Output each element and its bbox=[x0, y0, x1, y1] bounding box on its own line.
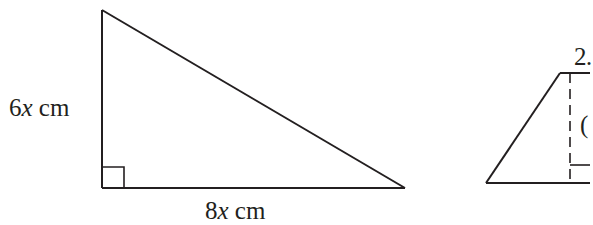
base-unit: cm bbox=[229, 197, 266, 224]
height-unit: cm bbox=[33, 94, 70, 121]
triangle-base-label: 8x cm bbox=[205, 198, 265, 223]
trapezoid-slanted-side bbox=[486, 73, 560, 183]
trapezoid-height-label-text: ( bbox=[580, 111, 588, 138]
right-angle-marker bbox=[102, 167, 124, 188]
triangle-hypotenuse bbox=[102, 10, 405, 188]
height-variable: x bbox=[22, 94, 33, 121]
base-coefficient: 8 bbox=[205, 197, 218, 224]
trapezoid-height-label: ( bbox=[580, 112, 588, 137]
triangle-height-label: 6x cm bbox=[9, 95, 69, 120]
trapezoid-top-label: 2. bbox=[574, 44, 593, 69]
height-coefficient: 6 bbox=[9, 94, 22, 121]
trapezoid bbox=[486, 73, 590, 183]
right-triangle bbox=[102, 10, 405, 188]
base-variable: x bbox=[218, 197, 229, 224]
trapezoid-top-label-text: 2 bbox=[574, 43, 587, 70]
